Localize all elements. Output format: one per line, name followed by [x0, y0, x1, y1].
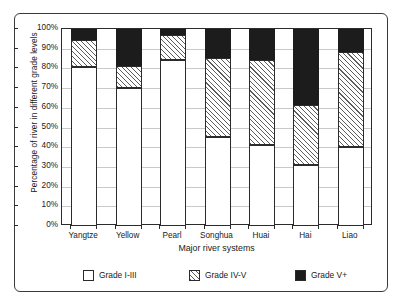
bar-segment[interactable]	[205, 29, 231, 58]
bar-segment[interactable]	[71, 67, 97, 226]
legend-swatch-white	[83, 270, 94, 281]
legend-item[interactable]: Grade IV-V	[189, 268, 246, 282]
bar-segment[interactable]	[293, 29, 319, 105]
y-axis-tick-label: 60%	[18, 102, 58, 111]
y-axis-tick-mark	[14, 205, 18, 206]
y-axis-tick-label: 30%	[18, 161, 58, 170]
bar-segment[interactable]	[338, 147, 364, 226]
legend-label: Grade I-III	[99, 270, 137, 280]
bar-segment[interactable]	[71, 29, 97, 40]
legend-item[interactable]: Grade I-III	[83, 268, 137, 282]
y-axis-tick-label: 20%	[18, 181, 58, 190]
chart-figure: Percentage of river in different grade l…	[0, 0, 401, 305]
y-axis-tick-mark	[14, 166, 18, 167]
y-axis-tick-label: 0%	[18, 220, 58, 229]
bar-group[interactable]	[249, 29, 275, 226]
bar-group[interactable]	[71, 29, 97, 226]
legend-item[interactable]: Grade V+	[295, 268, 347, 282]
bar-segment[interactable]	[160, 60, 186, 226]
x-axis-title: Major river systems	[61, 243, 372, 253]
bar-segment[interactable]	[116, 66, 142, 88]
y-axis-tick-mark	[14, 146, 18, 147]
y-axis-tick-mark	[14, 28, 18, 29]
y-axis-tick-label: 80%	[18, 62, 58, 71]
bar-segment[interactable]	[338, 29, 364, 52]
bar-segment[interactable]	[71, 40, 97, 67]
bar-group[interactable]	[205, 29, 231, 226]
bar-segment[interactable]	[205, 137, 231, 226]
chart-legend: Grade I-IIIGrade IV-VGrade V+	[61, 268, 372, 284]
y-axis-tick-mark	[14, 225, 18, 226]
y-axis-tick-mark	[14, 87, 18, 88]
x-axis-tick-label: Liao	[315, 231, 385, 240]
bar-segment[interactable]	[338, 52, 364, 148]
bar-series-container	[62, 29, 373, 226]
y-axis-tick-label: 40%	[18, 141, 58, 150]
bar-group[interactable]	[160, 29, 186, 226]
y-axis-tick-mark	[14, 186, 18, 187]
bar-segment[interactable]	[249, 145, 275, 226]
bar-segment[interactable]	[116, 88, 142, 226]
bar-segment[interactable]	[116, 29, 142, 66]
y-axis-tick-label: 70%	[18, 82, 58, 91]
y-axis-tick-mark	[14, 127, 18, 128]
y-axis-tick-label: 90%	[18, 43, 58, 52]
legend-swatch-hatched	[189, 270, 200, 281]
bar-segment[interactable]	[249, 29, 275, 60]
bar-group[interactable]	[116, 29, 142, 226]
bar-segment[interactable]	[293, 165, 319, 226]
bar-segment[interactable]	[205, 58, 231, 137]
bar-group[interactable]	[293, 29, 319, 226]
bar-segment[interactable]	[249, 60, 275, 145]
y-axis-tick-label: 10%	[18, 200, 58, 209]
y-axis-tick-mark	[14, 67, 18, 68]
legend-label: Grade V+	[311, 270, 347, 280]
legend-swatch-black	[295, 270, 306, 281]
y-axis-tick-mark	[14, 48, 18, 49]
plot-area	[61, 28, 372, 225]
legend-label: Grade IV-V	[205, 270, 246, 280]
bar-segment[interactable]	[160, 35, 186, 60]
y-axis-tick-mark	[14, 107, 18, 108]
bar-group[interactable]	[338, 29, 364, 226]
bar-segment[interactable]	[293, 105, 319, 165]
y-axis-tick-label: 50%	[18, 122, 58, 131]
y-axis-tick-label: 100%	[18, 23, 58, 32]
